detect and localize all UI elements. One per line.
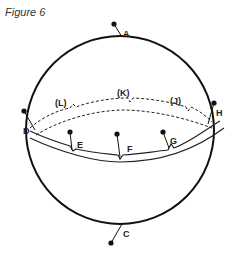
label-c: C bbox=[123, 229, 130, 239]
label-g: G bbox=[170, 136, 177, 146]
label-j: (J) bbox=[170, 96, 181, 106]
label-a: A bbox=[123, 29, 130, 39]
label-h: H bbox=[216, 108, 223, 118]
label-l: (L) bbox=[55, 98, 67, 108]
label-d: D bbox=[23, 126, 30, 136]
pointer-c: C bbox=[108, 224, 130, 246]
label-k: (K) bbox=[117, 88, 130, 98]
dashed-arc-lower bbox=[36, 110, 212, 135]
label-f: F bbox=[127, 144, 133, 154]
pointer-e: E bbox=[67, 129, 83, 150]
front-band-upper bbox=[30, 121, 220, 159]
pointer-g: G bbox=[160, 129, 177, 148]
pointer-f: F bbox=[114, 131, 133, 157]
label-e: E bbox=[77, 140, 83, 150]
sphere-outline bbox=[26, 36, 214, 224]
sphere-diagram: A C D E F G H (L) (K) (J) bbox=[0, 0, 234, 257]
